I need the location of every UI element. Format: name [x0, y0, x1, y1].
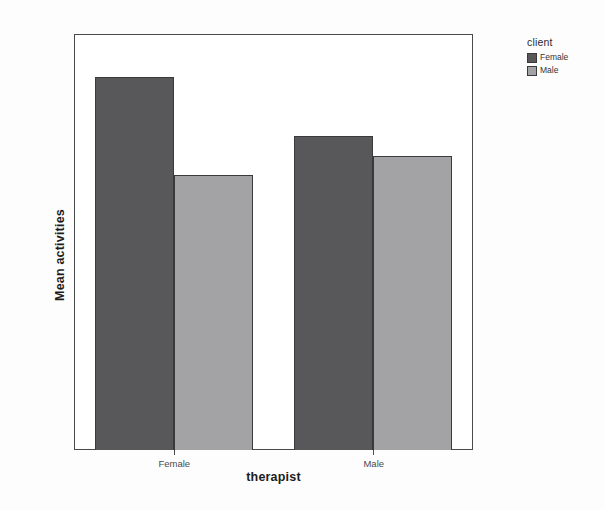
legend-item-male: Male [527, 65, 599, 76]
x-tick-label: Female [158, 458, 190, 469]
bar-male-female [294, 136, 373, 450]
x-tick-label: Male [363, 458, 384, 469]
x-tick-mark [174, 450, 175, 455]
bars-layer [74, 34, 473, 450]
y-axis: Mean activities 05101520 [0, 0, 74, 510]
legend: client FemaleMale [527, 36, 599, 78]
bar-chart-figure: Mean activities 05101520 FemaleMale ther… [0, 0, 605, 510]
bar-female-female [95, 77, 174, 450]
x-tick-mark [373, 450, 374, 455]
x-axis-title: therapist [74, 470, 473, 484]
legend-title: client [527, 36, 599, 48]
y-axis-title: Mean activities [53, 209, 67, 301]
legend-items: FemaleMale [527, 52, 599, 76]
legend-label: Female [540, 52, 568, 63]
legend-swatch-icon [527, 53, 537, 63]
legend-swatch-icon [527, 66, 537, 76]
bar-male-male [373, 156, 452, 450]
legend-item-female: Female [527, 52, 599, 63]
legend-label: Male [540, 65, 558, 76]
bar-female-male [174, 175, 253, 450]
